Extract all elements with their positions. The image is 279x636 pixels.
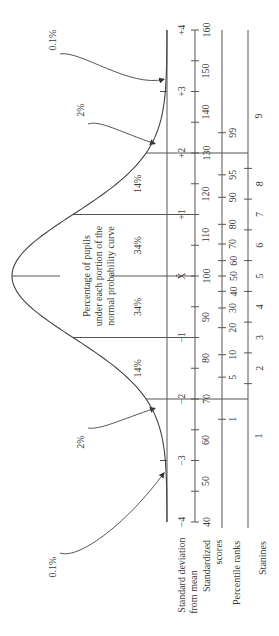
standardized-score-label: 60 <box>201 435 212 445</box>
tail-arrow <box>60 54 164 81</box>
curve-description: normal probability curve <box>105 226 116 326</box>
standardized-score-label: 70 <box>201 394 212 404</box>
tail-percentage: 2% <box>75 103 86 116</box>
standardized-score-label: 110 <box>201 228 212 243</box>
sd-tick-label: +1 <box>176 209 187 220</box>
standardized-score-label: 90 <box>201 312 212 322</box>
percentile-label: 90 <box>228 192 239 202</box>
row-label-sd: Standard deviation <box>176 537 187 612</box>
percentile-label: 40 <box>228 286 239 296</box>
standardized-score-label: 130 <box>201 146 212 161</box>
row-label-stanines: Stanines <box>257 541 268 575</box>
sd-tick-label: −1 <box>176 332 187 343</box>
stanine-label: 5 <box>254 274 265 279</box>
standardized-score-label: 50 <box>201 476 212 486</box>
area-percentage: 14% <box>132 175 143 193</box>
standardized-score-label: 150 <box>201 64 212 79</box>
standardized-score-label: 120 <box>201 187 212 202</box>
row-label-standardized: Standardized <box>201 540 212 592</box>
curve-description: under each portion of the <box>93 225 104 326</box>
tail-arrow <box>88 123 155 144</box>
sd-tick-label: +3 <box>176 86 187 97</box>
normal-curve-diagram: −4−3−2−1X̄+1+2+3+44050607080901001101201… <box>0 0 279 636</box>
standardized-score-label: 100 <box>201 269 212 284</box>
percentile-label: 20 <box>228 323 239 333</box>
stanine-label: 8 <box>254 181 265 186</box>
percentile-label: 5 <box>228 375 239 380</box>
labels: −4−3−2−1X̄+1+2+3+44050607080901001101201… <box>47 23 268 614</box>
tail-arrow <box>60 473 164 554</box>
sd-tick-label: +4 <box>176 25 187 36</box>
standardized-score-label: 80 <box>201 353 212 363</box>
tail-percentage: 2% <box>75 435 86 448</box>
tail-percentage: 0.1% <box>47 557 58 578</box>
sd-tick-label: +2 <box>176 148 187 159</box>
percentile-label: 60 <box>228 256 239 266</box>
percentile-label: 80 <box>228 219 239 229</box>
percentile-label: 99 <box>228 128 239 138</box>
axis-lines <box>12 30 252 554</box>
percentile-label: 70 <box>228 239 239 249</box>
stanine-label: 7 <box>254 212 265 217</box>
sd-tick-label: X̄ <box>176 272 187 280</box>
percentile-label: 1 <box>228 417 239 422</box>
stanine-label: 4 <box>254 304 265 309</box>
tail-percentage: 0.1% <box>47 30 58 51</box>
tail-arrow <box>88 408 155 428</box>
area-percentage: 34% <box>132 236 143 254</box>
area-percentage: 34% <box>132 298 143 316</box>
stanine-label: 9 <box>254 114 265 119</box>
curve-description: Percentage of pupils <box>81 235 92 317</box>
sd-tick-label: −2 <box>176 394 187 405</box>
area-percentage: 14% <box>132 359 143 377</box>
percentile-label: 95 <box>228 170 239 180</box>
percentile-label: 30 <box>228 303 239 313</box>
sd-tick-label: −3 <box>176 455 187 466</box>
sd-tick-label: −4 <box>176 517 187 528</box>
percentile-label: 10 <box>228 350 239 360</box>
stanine-label: 6 <box>254 243 265 248</box>
row-label-standardized: scores <box>213 539 224 564</box>
row-label-sd: from mean <box>188 570 199 614</box>
standardized-score-label: 160 <box>201 23 212 38</box>
stanine-label: 1 <box>254 433 265 438</box>
row-label-percentile: Percentile ranks <box>231 541 242 605</box>
stanine-label: 3 <box>254 335 265 340</box>
standardized-score-label: 40 <box>201 517 212 527</box>
percentile-label: 50 <box>228 271 239 281</box>
stanine-label: 2 <box>254 366 265 371</box>
standardized-score-label: 140 <box>201 104 212 119</box>
